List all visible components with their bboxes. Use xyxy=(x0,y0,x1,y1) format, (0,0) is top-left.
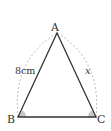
vertex-label-a: A xyxy=(50,21,60,34)
vertex-label-b: B xyxy=(7,113,15,126)
vertex-label-c: C xyxy=(97,113,105,126)
side-label-ab: 8cm xyxy=(15,65,35,76)
triangle-diagram: A B C 8cm x xyxy=(0,0,111,131)
side-label-ac: x xyxy=(85,65,91,76)
